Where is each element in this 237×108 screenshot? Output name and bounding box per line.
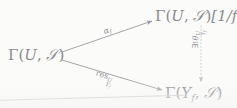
node-sections-sheaf: 𝒮 bbox=[204, 84, 216, 102]
diagram-canvas: Γ(U, 𝒮) Γ(U, 𝒮)[1/f] Γ(Yf, 𝒮) αf resUYf … bbox=[0, 0, 237, 108]
node-gamma-u-s-close: ) bbox=[58, 46, 64, 64]
node-sections-gamma: Γ bbox=[165, 84, 175, 102]
node-gamma-u-s-localized: Γ(U, 𝒮)[1/f] bbox=[155, 9, 237, 24]
arrow-label-theta-sub-sub: f bbox=[202, 30, 207, 32]
arrow-restriction-line bbox=[62, 60, 162, 90]
node-localized-suffix: [1/f] bbox=[211, 7, 237, 25]
node-localized-gamma: Γ bbox=[155, 7, 165, 25]
node-sections-comma: , bbox=[195, 84, 205, 102]
node-gamma-u-s-first: U bbox=[24, 46, 37, 64]
node-localized-sheaf: 𝒮 bbox=[193, 7, 205, 25]
node-sections-close: ) bbox=[216, 84, 222, 102]
arrow-label-theta-base: θ bbox=[191, 36, 200, 41]
arrow-label-theta-sub: Yf bbox=[201, 30, 207, 35]
node-sections-first: Y bbox=[181, 84, 191, 102]
node-gamma-u-s: Γ(U, 𝒮) bbox=[8, 48, 64, 63]
arrow-label-theta-quantifier: ∃! bbox=[191, 40, 200, 48]
arrow-label-theta-sub-base: Y bbox=[200, 32, 206, 36]
node-gamma-u-s-sheaf: 𝒮 bbox=[46, 46, 58, 64]
node-gamma-u-s-gamma: Γ bbox=[8, 46, 18, 64]
arrow-label-unique-theta: ∃!θUYf bbox=[192, 36, 200, 48]
node-localized-first: U bbox=[171, 7, 184, 25]
